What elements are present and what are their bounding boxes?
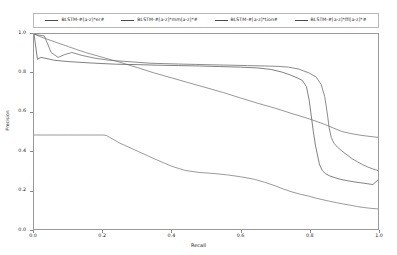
legend-entry-0[interactable]: BLSTM-#[a-z]*er# [45,18,104,23]
y-axis-label: Precision [5,101,10,141]
series-line-2 [34,34,378,137]
x-tick-label-0: 0.0 [23,234,43,239]
legend-line-sample-0 [45,20,58,21]
chart-legend: BLSTM-#[a-z]*er# BLSTM-#[a-z]*mm[a-z]*# … [33,13,379,28]
legend-label-2: BLSTM-#[a-z]*tion# [231,18,278,23]
x-tick-mark-2 [171,230,172,233]
y-tick-label-0: 0.0 [10,228,26,233]
x-axis-label: Recall [0,242,397,248]
y-tick-label-1: 0.2 [10,188,26,193]
x-tick-mark-5 [379,230,380,233]
x-tick-label-5: 1.0 [369,234,389,239]
y-tick-label-5: 1.0 [10,31,26,36]
y-tick-label-2: 0.4 [10,149,26,154]
x-tick-label-2: 0.4 [161,234,181,239]
legend-line-sample-1 [121,20,134,21]
plot-area [33,33,379,230]
legend-label-3: BLSTM-#[a-z]*ffl[a-z]*# [311,18,367,23]
x-tick-label-3: 0.6 [231,234,251,239]
x-tick-label-4: 0.8 [300,234,320,239]
series-curves [34,34,378,229]
x-tick-mark-4 [310,230,311,233]
x-tick-mark-1 [102,230,103,233]
series-line-3 [34,135,378,209]
y-tick-mark-2 [30,151,33,152]
legend-line-sample-3 [295,20,308,21]
y-tick-label-3: 0.6 [10,109,26,114]
y-tick-label-4: 0.8 [10,70,26,75]
y-tick-mark-1 [30,191,33,192]
legend-entry-2[interactable]: BLSTM-#[a-z]*tion# [215,18,278,23]
precision-recall-figure: BLSTM-#[a-z]*er# BLSTM-#[a-z]*mm[a-z]*# … [0,0,397,255]
legend-entry-3[interactable]: BLSTM-#[a-z]*ffl[a-z]*# [295,18,367,23]
y-tick-mark-5 [30,33,33,34]
y-tick-mark-4 [30,72,33,73]
x-tick-label-1: 0.2 [92,234,112,239]
x-tick-mark-0 [33,230,34,233]
legend-label-1: BLSTM-#[a-z]*mm[a-z]*# [137,18,197,23]
x-tick-mark-3 [241,230,242,233]
y-tick-mark-3 [30,112,33,113]
legend-label-0: BLSTM-#[a-z]*er# [61,18,104,23]
legend-line-sample-2 [215,20,228,21]
legend-entry-1[interactable]: BLSTM-#[a-z]*mm[a-z]*# [121,18,197,23]
series-line-1 [34,34,378,171]
